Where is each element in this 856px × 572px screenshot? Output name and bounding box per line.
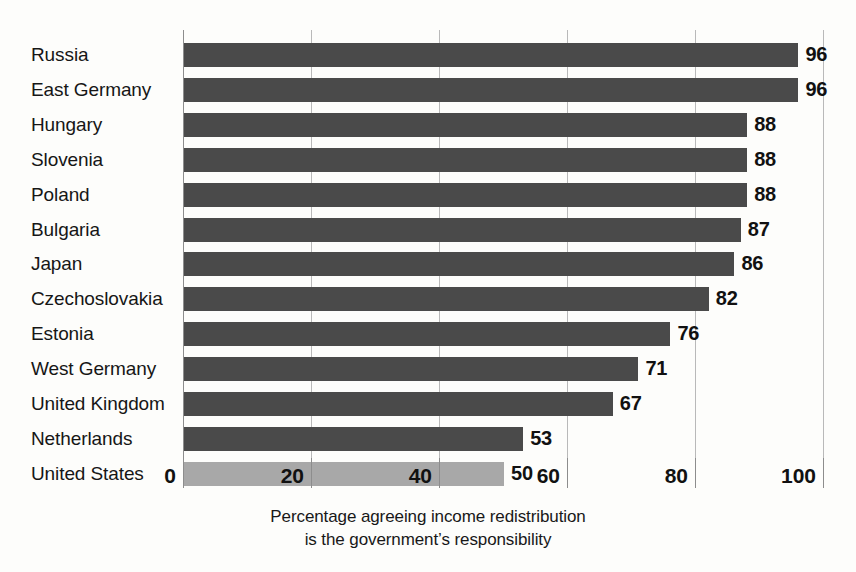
bar-west-germany [184,357,638,381]
bar-value-label: 67 [620,392,642,415]
bar-row: 67 [183,392,823,416]
bar-row: 87 [183,218,823,242]
tick-mark-80 [695,458,696,488]
bar-value-label: 71 [645,357,667,380]
category-label-poland: Poland [31,183,90,207]
bar-row: 88 [183,148,823,172]
x-axis: 020406080100 [183,458,823,492]
bar-chart: RussiaEast GermanyHungarySloveniaPolandB… [0,0,856,572]
category-label-netherlands: Netherlands [31,427,132,451]
bar-row: 76 [183,322,823,346]
caption-line-2: is the government’s responsibility [0,528,856,551]
bar-estonia [184,322,670,346]
caption-line-1: Percentage agreeing income redistributio… [0,505,856,528]
category-label-united-states: United States [31,462,144,486]
bar-row: 88 [183,113,823,137]
tick-label-80: 80 [665,464,695,488]
category-label-japan: Japan [31,252,82,276]
bar-value-label: 86 [741,252,763,275]
bar-value-label: 96 [805,78,827,101]
bar-japan [184,252,734,276]
category-label-estonia: Estonia [31,322,94,346]
bar-czechoslovakia [184,287,709,311]
bar-row: 53 [183,427,823,451]
tick-mark-40 [439,458,440,488]
tick-label-40: 40 [409,464,439,488]
tick-label-20: 20 [281,464,311,488]
tick-mark-20 [311,458,312,488]
bar-row: 82 [183,287,823,311]
tick-mark-0 [183,458,184,488]
bar-hungary [184,113,747,137]
bar-value-label: 96 [805,43,827,66]
bar-east-germany [184,78,798,102]
bar-value-label: 87 [748,218,770,241]
category-label-slovenia: Slovenia [31,148,103,172]
bar-row: 96 [183,43,823,67]
bar-value-label: 82 [716,287,738,310]
tick-label-100: 100 [781,464,823,488]
category-label-west-germany: West Germany [31,357,156,381]
category-label-united-kingdom: United Kingdom [31,392,165,416]
plot-area: 96968888888786827671675350 [183,30,823,458]
tick-label-60: 60 [537,464,567,488]
bar-value-label: 88 [754,113,776,136]
bar-bulgaria [184,218,741,242]
category-axis-labels: RussiaEast GermanyHungarySloveniaPolandB… [31,30,181,458]
tick-mark-100 [823,458,824,488]
bar-row: 96 [183,78,823,102]
category-label-czechoslovakia: Czechoslovakia [31,287,163,311]
bar-row: 71 [183,357,823,381]
bar-value-label: 88 [754,183,776,206]
bar-value-label: 88 [754,148,776,171]
bar-poland [184,183,747,207]
bar-slovenia [184,148,747,172]
bar-row: 88 [183,183,823,207]
bar-value-label: 76 [677,322,699,345]
category-label-east-germany: East Germany [31,78,151,102]
bar-row: 86 [183,252,823,276]
bar-united-kingdom [184,392,613,416]
bar-netherlands [184,427,523,451]
chart-caption: Percentage agreeing income redistributio… [0,505,856,551]
bar-value-label: 53 [530,427,552,450]
bar-russia [184,43,798,67]
tick-label-0: 0 [164,464,183,488]
category-label-bulgaria: Bulgaria [31,218,100,242]
category-label-russia: Russia [31,43,88,67]
category-label-hungary: Hungary [31,113,102,137]
tick-mark-60 [567,458,568,488]
